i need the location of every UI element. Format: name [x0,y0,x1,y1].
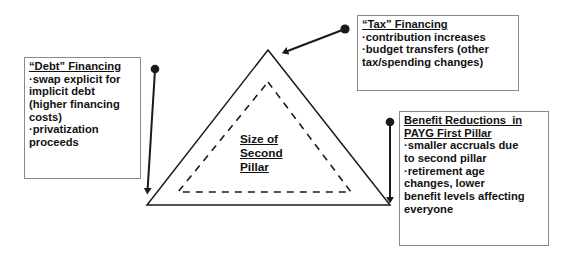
callout-tax-line-2: ·budget transfers (other [362,43,515,56]
center-label-line-3: Pillar [240,161,283,175]
callout-benefit-line-1: ·smaller accruals due [404,139,545,152]
callout-debt-line-4: costs) [29,111,137,124]
callout-debt-line-3: (higher financing [29,98,137,111]
callout-debt-heading: “Debt” Financing [29,60,137,73]
tax-connector-dot [340,24,349,33]
outer-triangle [147,50,390,205]
callout-debt-line-2: implicit debt [29,85,137,98]
callout-debt-line-5: ·privatization [29,123,137,136]
callout-benefit-line-5: benefit levels affecting [404,190,545,203]
diagram-canvas: Size of Second Pillar “Debt” Financing ·… [0,0,575,268]
callout-debt-line-6: proceeds [29,136,137,149]
callout-tax-financing: “Tax” Financing ·contribution increases … [357,15,519,91]
callout-debt-line-1: ·swap explicit for [29,73,137,86]
debt-connector-line [148,70,156,191]
callout-tax-heading: “Tax” Financing [362,18,515,31]
callout-benefit-heading-line-1: Benefit Reductions in [404,114,545,127]
center-label-line-2: Second [240,147,283,161]
benefit-connector-dot [386,118,395,127]
callout-benefit-heading-line-2: PAYG First Pillar [404,127,545,140]
callout-benefit-reductions: Benefit Reductions in PAYG First Pillar … [399,111,549,246]
callout-tax-line-3: tax/spending changes) [362,56,515,69]
callout-tax-line-1: ·contribution increases [362,31,515,44]
center-label-line-1: Size of [240,133,283,147]
callout-benefit-line-2: to second pillar [404,152,545,165]
callout-debt-financing: “Debt” Financing ·swap explicit for impl… [24,57,141,179]
center-label: Size of Second Pillar [240,133,283,175]
debt-connector-dot [151,65,160,74]
tax-connector-line [285,29,345,52]
callout-benefit-line-4: changes, lower [404,177,545,190]
callout-benefit-line-3: ·retirement age [404,165,545,178]
callout-benefit-line-6: everyone [404,203,545,216]
